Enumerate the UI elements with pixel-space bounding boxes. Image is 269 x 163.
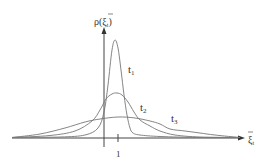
y-axis-arrow-icon [102,27,107,34]
label-t1: t1 [128,63,135,77]
x-tick-label-1: 1 [116,149,121,159]
label-t2: t2 [140,101,147,115]
x-axis-label: ξt [248,134,254,146]
curve-t3 [12,117,240,138]
chart: ρ(ξt) ξt 1 t1 t2 t3 [0,0,269,163]
label-t3: t3 [171,112,178,126]
y-axis-label: ρ(ξt) [94,16,112,28]
curve-t1 [12,40,240,138]
x-axis-arrow-icon [238,136,245,141]
curve-t2 [12,93,240,138]
